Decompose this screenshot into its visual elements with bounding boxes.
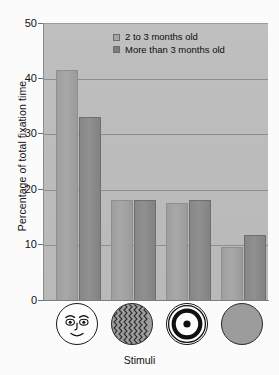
y-tick-50: 50 <box>15 18 37 28</box>
legend: 2 to 3 months old More than 3 months old <box>113 31 225 56</box>
bar-chart: Percentage of total fixation time 50 40 … <box>0 0 279 375</box>
stimuli-icon-row <box>43 303 269 349</box>
bullseye-stimulus-icon <box>166 303 208 345</box>
y-tick-20: 20 <box>15 184 37 194</box>
bar-scrambled-morethan3months <box>134 200 156 300</box>
legend-label-2to3months: 2 to 3 months old <box>125 31 198 44</box>
bar-face-morethan3months <box>79 117 101 300</box>
bar-bullseye-morethan3months <box>189 200 211 300</box>
y-tick-10: 10 <box>15 239 37 249</box>
bar-plaindisk-morethan3months <box>244 235 266 300</box>
legend-swatch-dark-icon <box>113 46 120 53</box>
y-axis-tick-labels: 50 40 30 20 10 0 <box>13 0 37 375</box>
legend-swatch-light-icon <box>113 34 120 41</box>
legend-item-2to3months: 2 to 3 months old <box>113 31 225 44</box>
bar-plaindisk-2to3months <box>221 247 243 300</box>
y-tick-0: 0 <box>15 295 37 305</box>
y-tick-40: 40 <box>15 73 37 83</box>
legend-label-morethan3months: More than 3 months old <box>125 44 225 57</box>
bar-bullseye-2to3months <box>166 203 188 300</box>
legend-item-morethan3months: More than 3 months old <box>113 44 225 57</box>
face-stimulus-icon <box>56 303 98 345</box>
zigzag-glyph <box>112 304 152 344</box>
x-axis-title: Stimuli <box>0 354 279 366</box>
scrambled-pattern-stimulus-icon <box>111 303 153 345</box>
x-axis-baseline <box>43 300 269 301</box>
plain-disk-stimulus-icon <box>221 303 263 345</box>
face-glyph <box>57 304 97 344</box>
bullseye-glyph <box>167 304 207 344</box>
bar-face-2to3months <box>56 70 78 300</box>
bar-scrambled-2to3months <box>111 200 133 300</box>
y-tick-30: 30 <box>15 128 37 138</box>
plot-area <box>43 23 268 300</box>
